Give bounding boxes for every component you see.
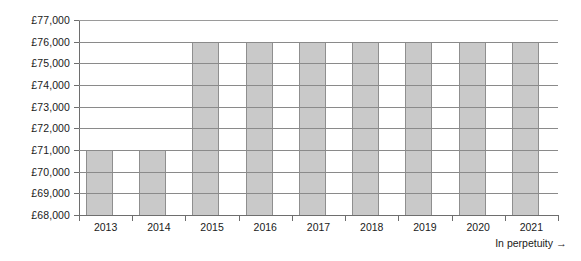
y-axis-tick-label: £72,000 [31, 123, 70, 134]
x-axis-tick-mark [132, 216, 133, 221]
y-axis-tick-label: £69,000 [31, 188, 70, 199]
y-axis-tick-mark [74, 85, 79, 86]
x-axis-tick-mark [79, 216, 80, 221]
x-axis-tick-label: 2020 [466, 222, 489, 233]
y-axis-tick-labels: £68,000£69,000£70,000£71,000£72,000£73,0… [0, 0, 70, 261]
gridline [79, 85, 558, 86]
x-axis-tick-mark [292, 216, 293, 221]
y-axis-tick-label: £74,000 [31, 80, 70, 91]
gridline [79, 63, 558, 64]
y-axis-tick-mark [74, 42, 79, 43]
x-axis-tick-mark [558, 216, 559, 221]
y-axis-tick-label: £68,000 [31, 210, 70, 221]
x-axis-tick-label: 2014 [147, 222, 170, 233]
x-axis-tick-label: 2019 [413, 222, 436, 233]
x-axis-tick-mark [452, 216, 453, 221]
in-perpetuity-annotation: In perpetuity→ [495, 238, 567, 249]
y-axis-tick-mark [74, 193, 79, 194]
x-axis-tick-label: 2017 [307, 222, 330, 233]
y-axis-tick-mark [74, 128, 79, 129]
x-axis-tick-mark [505, 216, 506, 221]
y-axis-tick-label: £71,000 [31, 145, 70, 156]
x-axis-tick-mark [398, 216, 399, 221]
x-axis-line [79, 215, 559, 216]
y-axis-tick-mark [74, 150, 79, 151]
y-axis-tick-label: £77,000 [31, 15, 70, 26]
y-axis-tick-mark [74, 172, 79, 173]
x-axis-tick-mark [345, 216, 346, 221]
gridline [79, 128, 558, 129]
x-axis-tick-label: 2016 [254, 222, 277, 233]
y-axis-tick-label: £75,000 [31, 58, 70, 69]
y-axis-tick-mark [74, 63, 79, 64]
y-axis-tick-mark [74, 20, 79, 21]
y-axis-tick-label: £76,000 [31, 36, 70, 47]
x-axis-tick-mark [239, 216, 240, 221]
gridline [79, 107, 558, 108]
gridline [79, 150, 558, 151]
plot-area [79, 20, 558, 215]
x-axis-tick-label: 2015 [200, 222, 223, 233]
y-axis-tick-mark [74, 215, 79, 216]
x-axis-tick-label: 2018 [360, 222, 383, 233]
arrow-right-icon: → [556, 238, 567, 249]
x-axis-tick-label: 2021 [520, 222, 543, 233]
bar-chart: £68,000£69,000£70,000£71,000£72,000£73,0… [0, 0, 581, 261]
gridline [79, 193, 558, 194]
x-axis-tick-label: 2013 [94, 222, 117, 233]
gridline [79, 20, 558, 21]
y-axis-tick-mark [74, 107, 79, 108]
y-axis-tick-label: £70,000 [31, 166, 70, 177]
gridline [79, 42, 558, 43]
bar [86, 150, 113, 215]
in-perpetuity-label: In perpetuity [495, 237, 553, 249]
bar [139, 150, 166, 215]
y-axis-tick-label: £73,000 [31, 101, 70, 112]
gridline [79, 172, 558, 173]
x-axis-tick-mark [185, 216, 186, 221]
